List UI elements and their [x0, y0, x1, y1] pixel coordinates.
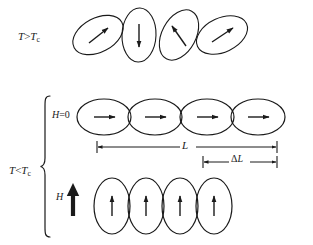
figure-canvas — [0, 0, 313, 245]
label-h-equals-zero: H=0 — [52, 110, 70, 120]
domain-arrow — [89, 28, 108, 43]
label-h-field: H — [56, 192, 63, 202]
row-aligned-no-field — [77, 99, 285, 135]
magnetostriction-figure: T>Tc T<Tc H=0 H L ΔL — [0, 0, 313, 245]
group-brace — [41, 96, 51, 237]
label-delta-L: ΔL — [231, 154, 243, 164]
domain-arrow — [212, 28, 233, 42]
applied-field-arrow — [67, 183, 79, 216]
label-length-L: L — [182, 140, 188, 151]
row-disordered — [66, 3, 253, 67]
ellipse-domain — [66, 7, 130, 62]
row-aligned-with-field — [94, 178, 232, 234]
label-t-greater-than-tc: T>Tc — [18, 31, 40, 42]
label-t-less-than-tc: T<Tc — [9, 165, 31, 176]
domain-arrow — [172, 26, 186, 46]
